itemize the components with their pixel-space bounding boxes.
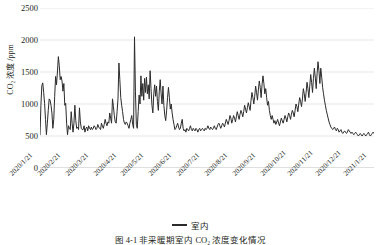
y-tick-label: 1000 (4, 100, 38, 108)
x-axis-tick-labels: 2020/1/212020/2/212020/3/212020/4/212020… (0, 170, 381, 218)
legend-marker-indoor (172, 224, 187, 226)
y-tick-label: 500 (4, 132, 38, 140)
data-polyline (40, 37, 374, 136)
chart-legend: 室内 (0, 219, 381, 231)
y-tick-label: 1500 (4, 68, 38, 76)
y-tick-label: 2500 (4, 4, 38, 12)
y-axis-tick-labels: 05001000150020002500 (0, 0, 38, 180)
series-line-indoor (40, 8, 374, 168)
legend-label-indoor: 室内 (191, 219, 209, 231)
y-tick-label: 2000 (4, 36, 38, 44)
figure-caption: 图 4-1 非采暖期室内 CO₂ 浓度变化情况 (0, 233, 381, 245)
plot-area (40, 8, 374, 168)
